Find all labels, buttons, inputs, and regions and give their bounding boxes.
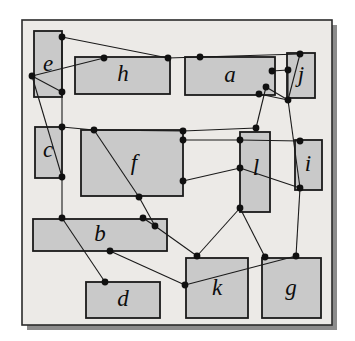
node-n30[interactable]: [102, 279, 109, 286]
node-n24[interactable]: [237, 205, 244, 212]
rect-label-g: g: [285, 275, 297, 300]
node-n13[interactable]: [91, 127, 98, 134]
node-n7[interactable]: [285, 67, 292, 74]
node-n9[interactable]: [59, 89, 66, 96]
figure-page: ehajcflibdkg: [0, 0, 355, 341]
node-n23[interactable]: [297, 185, 304, 192]
rect-label-h: h: [117, 61, 129, 86]
node-n14[interactable]: [180, 128, 187, 135]
rect-label-b: b: [94, 221, 106, 246]
node-n10[interactable]: [256, 91, 263, 98]
node-n6[interactable]: [269, 68, 276, 75]
node-n32[interactable]: [293, 253, 300, 260]
node-n26[interactable]: [140, 215, 147, 222]
node-n2[interactable]: [101, 55, 108, 62]
rect-label-i: i: [305, 151, 311, 176]
node-n1[interactable]: [59, 34, 66, 41]
rect-label-e: e: [43, 51, 53, 76]
node-n31[interactable]: [262, 254, 269, 261]
rect-label-l: l: [253, 155, 259, 180]
rect-label-d: d: [117, 286, 129, 311]
node-n16[interactable]: [180, 137, 187, 144]
node-n33[interactable]: [182, 282, 189, 289]
node-n8[interactable]: [29, 73, 36, 80]
node-n22[interactable]: [136, 194, 143, 201]
node-n19[interactable]: [237, 165, 244, 172]
rect-label-k: k: [212, 275, 223, 300]
node-n5[interactable]: [297, 51, 304, 58]
rect-label-a: a: [224, 62, 236, 87]
node-n29[interactable]: [194, 253, 201, 260]
node-n17[interactable]: [237, 137, 244, 144]
node-n15[interactable]: [253, 125, 260, 132]
node-n3[interactable]: [165, 55, 172, 62]
node-n4[interactable]: [197, 54, 204, 61]
node-n21[interactable]: [59, 174, 66, 181]
node-n28[interactable]: [107, 248, 114, 255]
node-n25[interactable]: [59, 215, 66, 222]
node-link-diagram: ehajcflibdkg: [0, 0, 355, 341]
node-n27[interactable]: [152, 223, 159, 230]
node-n20[interactable]: [180, 178, 187, 185]
node-n18[interactable]: [297, 138, 304, 145]
node-n12[interactable]: [59, 124, 66, 131]
rect-label-c: c: [43, 137, 53, 162]
node-n11[interactable]: [285, 97, 292, 104]
node-n34[interactable]: [263, 84, 270, 91]
